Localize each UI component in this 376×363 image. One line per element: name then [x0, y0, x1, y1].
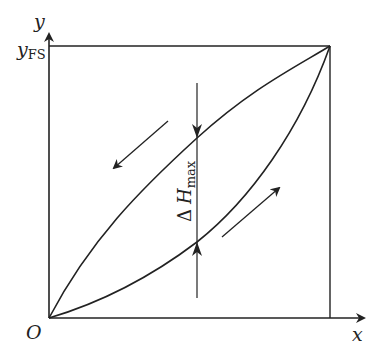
origin-label: O: [26, 321, 42, 343]
increasing-direction-arrow: [222, 188, 279, 237]
delta-h-max-label: ΔHmax: [174, 160, 198, 222]
hysteresis-diagram: y yFS O x ΔHmax: [0, 0, 376, 363]
svg-text:ΔHmax: ΔHmax: [174, 160, 198, 222]
x-axis-label: x: [352, 323, 363, 345]
y-fullscale-label: yFS: [16, 38, 46, 62]
y-axis-label: y: [33, 10, 45, 32]
decreasing-direction-arrow: [114, 121, 168, 168]
